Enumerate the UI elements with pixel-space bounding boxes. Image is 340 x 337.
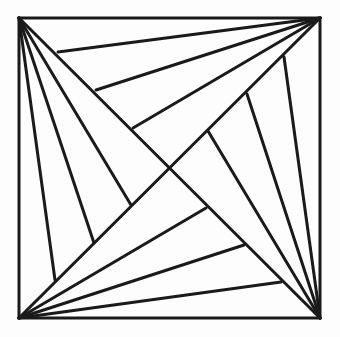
pinwheel-line-diagram [0,0,340,337]
